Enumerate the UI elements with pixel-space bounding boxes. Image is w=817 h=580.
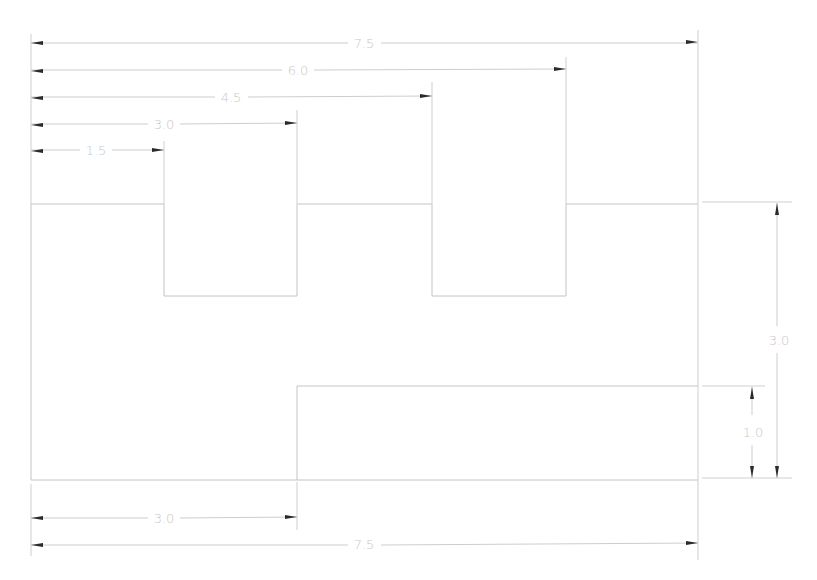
dimension-label: 3.0: [154, 511, 175, 526]
arrow-left-icon: [31, 516, 43, 520]
arrow-left-icon: [31, 543, 43, 547]
dimension-label: 7.5: [354, 537, 375, 552]
dimension-label: 6.0: [288, 63, 309, 78]
part-profile: [31, 204, 698, 480]
dimension-overall-width-bottom: 7.5: [31, 537, 698, 552]
dimension-label: 3.0: [769, 333, 790, 348]
arrow-right-icon: [285, 121, 297, 125]
dimension-label: 3.0: [154, 117, 175, 132]
arrow-right-icon: [420, 94, 432, 98]
arrow-right-icon: [686, 541, 698, 545]
dimension-overall-width-top: 7.5: [31, 36, 698, 51]
dimension-notch2-end: 6.0: [31, 63, 566, 78]
arrow-left-icon: [31, 41, 43, 45]
arrow-right-icon: [152, 148, 164, 152]
dimension-step-start: 3.0: [31, 511, 297, 526]
arrow-right-icon: [285, 515, 297, 519]
dimension-label: 7.5: [354, 36, 375, 51]
arrow-up-icon: [750, 387, 754, 399]
dimension-step-height: 1.0: [743, 387, 764, 478]
dimension-notch1-start: 1.5: [31, 143, 164, 158]
arrow-up-icon: [775, 203, 779, 215]
dimension-label: 1.0: [743, 425, 764, 440]
arrow-down-icon: [750, 466, 754, 478]
dimension-label: 1.5: [86, 143, 107, 158]
dimension-overall-height: 3.0: [769, 203, 790, 478]
arrow-right-icon: [554, 67, 566, 71]
dimension-notch1-end: 3.0: [31, 117, 297, 132]
dimension-label: 4.5: [221, 90, 242, 105]
arrow-down-icon: [775, 466, 779, 478]
dimension-notch2-start: 4.5: [31, 90, 432, 105]
technical-drawing: 7.5 6.0 4.5 3.0 1.5 3.0: [0, 0, 817, 580]
